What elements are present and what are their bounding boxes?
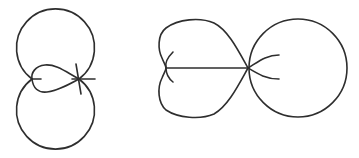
diagram-canvas: [0, 0, 359, 158]
left-cusp-tick: [166, 52, 173, 82]
left-figure: [17, 9, 96, 149]
right-figure: [159, 19, 347, 117]
top-circle-arc: [17, 9, 95, 79]
upper-whisker: [248, 55, 279, 68]
right-circle: [249, 19, 347, 117]
lower-whisker: [248, 68, 279, 79]
diagram-svg: [0, 0, 359, 158]
